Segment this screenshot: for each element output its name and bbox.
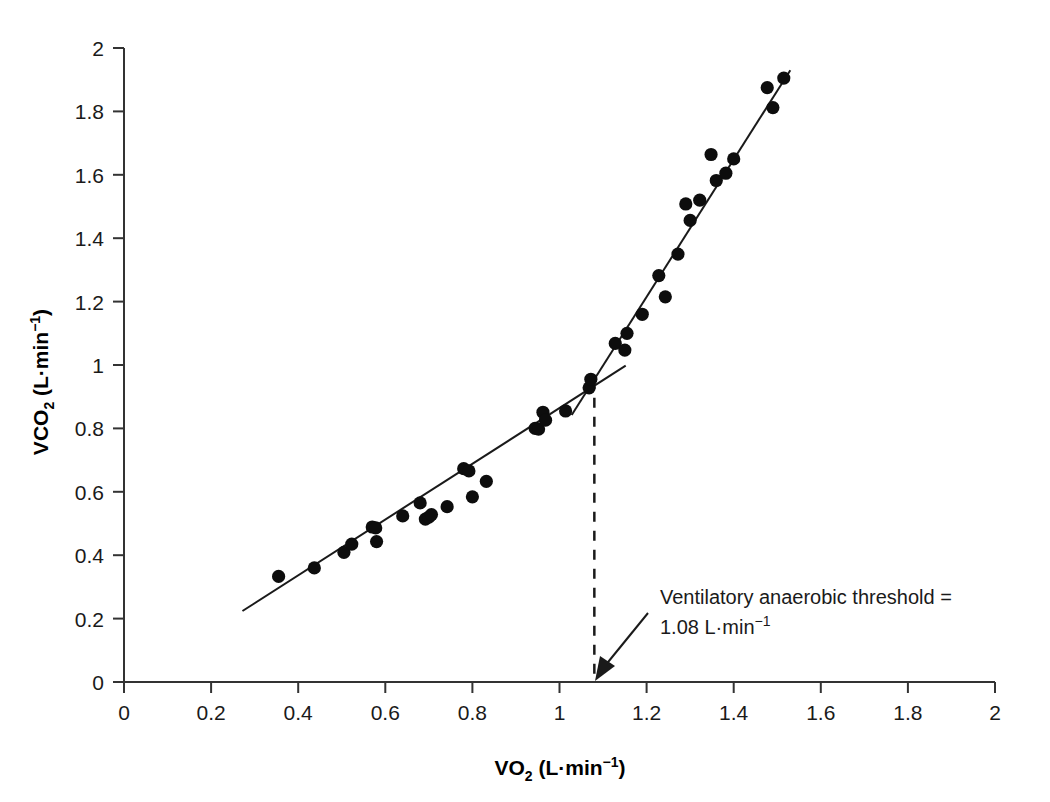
y-tick-label: 0 xyxy=(92,671,104,694)
y-axis-title: VCO2 (L·min−1) xyxy=(27,309,57,455)
data-point xyxy=(441,500,454,513)
x-tick-label: 1 xyxy=(554,701,566,724)
x-tick-label: 0.8 xyxy=(458,701,487,724)
data-point xyxy=(584,373,597,386)
data-point xyxy=(693,194,706,207)
x-tick-label: 0.6 xyxy=(371,701,400,724)
data-point xyxy=(396,509,409,522)
fit-line-above-threshold-slope xyxy=(572,70,791,415)
x-axis-title-close: ) xyxy=(619,756,626,779)
y-tick-label: 1 xyxy=(92,354,104,377)
y-axis-ticks xyxy=(113,48,124,682)
threshold-annotation-unit: L·min xyxy=(705,616,755,638)
x-axis-title-main: VO xyxy=(494,756,524,779)
data-point xyxy=(369,521,382,534)
y-axis-tick-labels: 00.20.40.60.811.21.41.61.82 xyxy=(75,37,105,694)
y-tick-label: 1.8 xyxy=(75,100,104,123)
x-axis-title: VO2 (L·min−1) xyxy=(494,754,625,784)
data-point xyxy=(618,344,631,357)
data-point xyxy=(345,538,358,551)
data-point xyxy=(425,508,438,521)
data-point xyxy=(308,561,321,574)
data-point xyxy=(719,167,732,180)
data-point xyxy=(620,327,633,340)
data-point xyxy=(704,148,717,161)
y-axis-title-unit: (L·min xyxy=(29,332,52,402)
x-tick-label: 1.6 xyxy=(806,701,835,724)
data-point xyxy=(679,197,692,210)
scatter-data-points xyxy=(272,72,790,584)
data-point xyxy=(466,490,479,503)
vslope-scatter-chart: 00.20.40.60.811.21.41.61.82 00.20.40.60.… xyxy=(0,0,1050,802)
x-tick-label: 0.2 xyxy=(196,701,225,724)
y-tick-label: 1.6 xyxy=(75,164,104,187)
data-point xyxy=(727,152,740,165)
x-tick-label: 0 xyxy=(118,701,130,724)
data-point xyxy=(539,414,552,427)
x-axis-title-subscript: 2 xyxy=(525,768,533,784)
data-point xyxy=(659,290,672,303)
y-tick-label: 0.2 xyxy=(75,608,104,631)
data-point xyxy=(370,535,383,548)
x-tick-label: 1.8 xyxy=(893,701,922,724)
data-point xyxy=(684,214,697,227)
data-point xyxy=(671,247,684,260)
x-axis-ticks xyxy=(124,682,995,693)
fit-line-below-threshold-slope xyxy=(242,366,625,611)
data-point xyxy=(761,81,774,94)
y-tick-label: 1.4 xyxy=(75,227,105,250)
threshold-annotation-exponent: −1 xyxy=(755,613,771,629)
data-point xyxy=(462,464,475,477)
threshold-annotation-line2: 1.08 L·min−1 xyxy=(660,613,771,638)
data-point xyxy=(480,475,493,488)
x-axis-title-unit: (L·min xyxy=(533,756,603,779)
x-axis-tick-labels: 00.20.40.60.811.21.41.61.82 xyxy=(118,701,1001,724)
data-point xyxy=(272,570,285,583)
y-axis-title-main: VCO xyxy=(29,410,52,456)
y-tick-label: 0.6 xyxy=(75,481,104,504)
arrow-head xyxy=(595,656,615,681)
data-point xyxy=(766,101,779,114)
x-tick-label: 0.4 xyxy=(284,701,314,724)
x-axis-title-superscript: −1 xyxy=(603,754,619,770)
y-axis-title-superscript: −1 xyxy=(27,316,43,332)
y-tick-label: 0.4 xyxy=(75,544,105,567)
threshold-annotation-line1: Ventilatory anaerobic threshold = xyxy=(660,586,952,608)
y-axis-title-close: ) xyxy=(29,309,52,316)
x-tick-label: 2 xyxy=(989,701,1001,724)
y-tick-label: 0.8 xyxy=(75,417,104,440)
x-tick-label: 1.4 xyxy=(719,701,749,724)
threshold-annotation-arrow xyxy=(595,613,648,681)
y-axis-title-subscript: 2 xyxy=(41,402,57,410)
data-point xyxy=(636,308,649,321)
threshold-annotation-value: 1.08 xyxy=(660,616,699,638)
data-point xyxy=(414,496,427,509)
figure-container: 00.20.40.60.811.21.41.61.82 00.20.40.60.… xyxy=(0,0,1050,802)
data-point xyxy=(652,269,665,282)
x-tick-label: 1.2 xyxy=(632,701,661,724)
data-point xyxy=(559,404,572,417)
data-point xyxy=(777,72,790,85)
y-tick-label: 1.2 xyxy=(75,291,104,314)
y-tick-label: 2 xyxy=(92,37,104,60)
